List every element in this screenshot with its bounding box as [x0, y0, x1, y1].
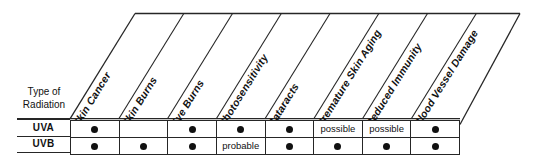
cell-uva-eye-burns	[168, 120, 217, 137]
table-row: possible possible	[71, 120, 460, 137]
cell-uvb-skin-cancer	[71, 137, 120, 154]
cell-uvb-cataracts	[265, 137, 314, 154]
column-header-blood-vessel-damage: Blood Vessel Damage	[411, 27, 480, 129]
effect-marker-dot	[432, 126, 439, 133]
row-label-uvb: UVB	[17, 136, 70, 153]
cell-uvb-photosensitivity: probable	[216, 137, 265, 154]
row-label-uva: UVA	[17, 120, 70, 137]
effect-marker-dot	[286, 126, 293, 133]
effect-marker-dot	[189, 126, 196, 133]
cell-uva-premature-skin-aging: possible	[314, 120, 363, 137]
cell-uva-skin-cancer	[71, 120, 120, 137]
cell-uvb-reduced-immunity	[362, 137, 411, 154]
effect-marker-dot	[91, 143, 98, 150]
column-header-photosensitivity: Photosensitivity	[216, 52, 270, 129]
cell-uvb-eye-burns	[168, 137, 217, 154]
stub-rule-bottom	[17, 152, 70, 153]
cell-uva-blood-vessel-damage	[411, 120, 460, 137]
effect-marker-dot	[91, 126, 98, 133]
effects-grid: possible possible probable	[70, 120, 460, 155]
effect-marker-dot	[383, 143, 390, 150]
cell-uva-skin-burns	[119, 120, 168, 137]
effect-marker-dot	[286, 143, 293, 150]
effect-marker-dot	[237, 126, 244, 133]
cell-uvb-skin-burns	[119, 137, 168, 154]
cell-uva-cataracts	[265, 120, 314, 137]
effect-marker-dot	[189, 143, 196, 150]
effect-marker-dot	[140, 143, 147, 150]
uv-radiation-effects-table: Skin Cancer Skin Burns Eye Burns Photose…	[0, 0, 543, 162]
effects-grid-body: possible possible probable	[71, 120, 460, 154]
effect-marker-dot	[432, 143, 439, 150]
cell-uva-photosensitivity	[216, 120, 265, 137]
cell-uva-reduced-immunity: possible	[362, 120, 411, 137]
cell-uvb-blood-vessel-damage	[411, 137, 460, 154]
cell-uvb-premature-skin-aging	[314, 137, 363, 154]
row-header-caption-line2: Radiation	[16, 99, 72, 112]
effect-marker-dot	[334, 143, 341, 150]
row-header-caption: Type of Radiation	[16, 86, 72, 111]
row-label-column: UVA UVB	[17, 120, 70, 153]
table-row: probable	[71, 137, 460, 154]
row-header-caption-line1: Type of	[16, 86, 72, 99]
